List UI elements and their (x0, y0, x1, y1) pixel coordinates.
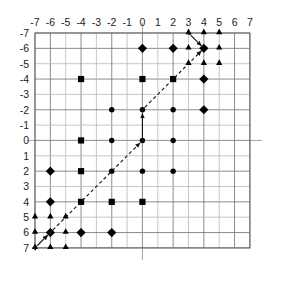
y-tick-label: 7 (23, 242, 29, 254)
x-tick-label: 4 (201, 16, 207, 28)
marker-square (139, 76, 145, 82)
marker-square (109, 199, 115, 205)
x-tick-label: 3 (186, 16, 192, 28)
x-tick-label: -5 (61, 16, 70, 28)
marker-square (78, 168, 84, 174)
marker-triangle (32, 213, 38, 219)
marker-triangle (63, 244, 69, 250)
marker-diamond (138, 44, 147, 53)
x-tick-label: -2 (107, 16, 116, 28)
y-axis-tick-labels: -7-6-5-4-3-2-101234567 (20, 27, 30, 254)
marker-triangle (216, 44, 222, 50)
marker-triangle (47, 244, 53, 250)
x-tick-label: -1 (122, 16, 131, 28)
y-tick-label: -5 (20, 58, 29, 70)
marker-triangle (185, 29, 191, 35)
marker-diamond (169, 44, 178, 53)
marker-diamond (107, 228, 116, 237)
y-tick-label: 6 (23, 226, 29, 238)
marker-circle (109, 107, 114, 112)
marker-square (139, 199, 145, 205)
arrow-upper-right (191, 35, 202, 46)
x-tick-label: -4 (76, 16, 85, 28)
marker-circle (170, 168, 175, 173)
y-tick-label: -3 (20, 88, 29, 100)
marker-diamond (76, 228, 85, 237)
marker-diamond (46, 197, 55, 206)
y-tick-label: -4 (20, 73, 29, 85)
marker-triangle (32, 244, 38, 250)
marker-triangle (216, 29, 222, 35)
figure-canvas: -7-6-5-4-3-2-101234567 -7-6-5-4-3-2-1012… (0, 0, 288, 293)
x-tick-label: -3 (92, 16, 101, 28)
x-tick-label: 2 (170, 16, 176, 28)
y-tick-label: 0 (23, 134, 29, 146)
marker-circle (140, 107, 145, 112)
arrow-lower-left (37, 235, 48, 246)
marker-triangle (47, 213, 53, 219)
marker-diamond (199, 74, 208, 83)
x-tick-label: 7 (247, 16, 253, 28)
marker-triangle (201, 29, 207, 35)
x-tick-label: 0 (140, 16, 146, 28)
x-tick-label: 5 (216, 16, 222, 28)
marker-diamond (199, 105, 208, 114)
marker-triangle (63, 228, 69, 234)
x-tick-label: 6 (232, 16, 238, 28)
marker-triangle (185, 44, 191, 50)
marker-square (78, 137, 84, 143)
y-tick-label: -2 (20, 104, 29, 116)
y-tick-label: 2 (23, 165, 29, 177)
y-tick-label: 3 (23, 180, 29, 192)
x-tick-label: 1 (155, 16, 161, 28)
marker-triangle (216, 59, 222, 65)
marker-triangle (201, 59, 207, 65)
x-axis-tick-labels: -7-6-5-4-3-2-101234567 (30, 16, 253, 28)
marker-circle (170, 107, 175, 112)
marker-circle (140, 168, 145, 173)
x-tick-label: -7 (30, 16, 39, 28)
marker-circle (109, 138, 114, 143)
y-tick-label: 1 (23, 150, 29, 162)
marker-circle (140, 138, 145, 143)
marker-triangle (32, 228, 38, 234)
y-tick-label: 5 (23, 211, 29, 223)
marker-square (78, 76, 84, 82)
y-tick-label: -7 (20, 27, 29, 39)
x-tick-label: -6 (46, 16, 55, 28)
coordinate-plot: -7-6-5-4-3-2-101234567 -7-6-5-4-3-2-1012… (0, 0, 288, 293)
y-tick-label: -6 (20, 42, 29, 54)
y-tick-label: 4 (23, 196, 29, 208)
marker-diamond (46, 167, 55, 176)
y-tick-label: -1 (20, 119, 29, 131)
marker-circle (170, 138, 175, 143)
